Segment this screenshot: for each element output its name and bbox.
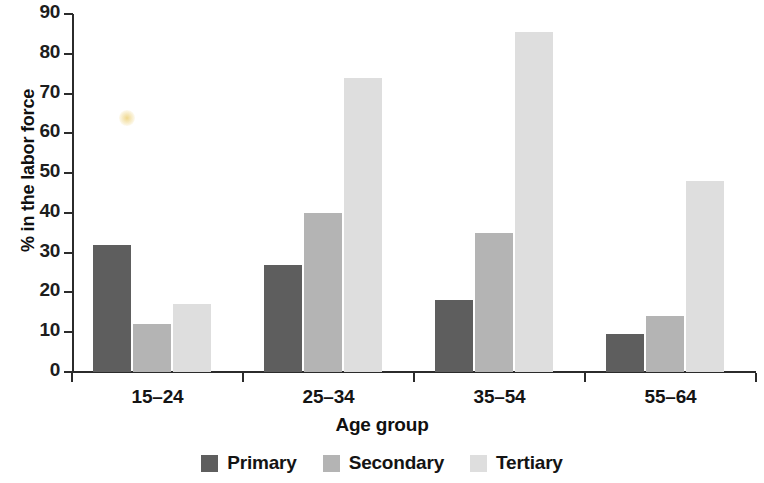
legend-swatch-tertiary (470, 455, 487, 472)
chart-legend: PrimarySecondaryTertiary (0, 452, 764, 474)
x-tick-label: 35–54 (440, 386, 560, 408)
y-tick-label: 10 (14, 319, 60, 341)
bar-secondary-35-54 (475, 233, 513, 372)
legend-swatch-primary (201, 455, 218, 472)
x-tick (242, 373, 244, 382)
y-tick-label: 60 (14, 120, 60, 142)
y-tick-label: 0 (14, 359, 60, 381)
legend-label: Tertiary (496, 452, 563, 474)
y-tick-label: 80 (14, 41, 60, 63)
y-tick-label: 70 (14, 81, 60, 103)
bar-chart: % in the labor force 9080706050403020100… (0, 0, 764, 483)
legend-item-tertiary: Tertiary (470, 452, 563, 474)
bars-layer (72, 14, 756, 372)
x-tick-label: 25–34 (269, 386, 389, 408)
y-tick-label: 90 (14, 1, 60, 23)
bar-tertiary-55-64 (686, 181, 724, 372)
legend-item-secondary: Secondary (323, 452, 444, 474)
bar-primary-55-64 (606, 334, 644, 372)
x-tick-label: 15–24 (98, 386, 218, 408)
bar-secondary-55-64 (646, 316, 684, 372)
bar-primary-15-24 (93, 245, 131, 372)
x-tick (71, 373, 73, 382)
y-tick-label: 50 (14, 160, 60, 182)
bar-tertiary-35-54 (515, 32, 553, 372)
bar-primary-25-34 (264, 265, 302, 372)
legend-item-primary: Primary (201, 452, 296, 474)
bar-tertiary-25-34 (344, 78, 382, 372)
y-tick-label: 20 (14, 279, 60, 301)
bar-secondary-15-24 (133, 324, 171, 372)
x-tick (413, 373, 415, 382)
x-axis-title: Age group (0, 414, 764, 436)
x-tick (584, 373, 586, 382)
y-tick-label: 40 (14, 200, 60, 222)
legend-label: Secondary (349, 452, 444, 474)
bar-secondary-25-34 (304, 213, 342, 372)
bar-tertiary-15-24 (173, 304, 211, 372)
x-tick (755, 373, 757, 382)
y-tick-label: 30 (14, 240, 60, 262)
scan-artifact-smudge (119, 110, 135, 126)
legend-label: Primary (227, 452, 296, 474)
bar-primary-35-54 (435, 300, 473, 372)
x-tick-label: 55–64 (611, 386, 731, 408)
legend-swatch-secondary (323, 455, 340, 472)
